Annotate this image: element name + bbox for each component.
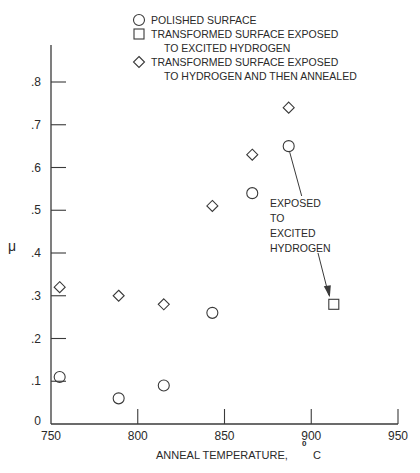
square-marker-icon	[134, 29, 144, 39]
x-tick-label: 850	[214, 429, 234, 443]
axes	[51, 45, 398, 424]
series-diamond	[54, 102, 294, 310]
legend-item-diamond: TRANSFORMED SURFACE EXPOSEDTO HYDROGEN A…	[134, 56, 358, 82]
diamond-point	[283, 102, 294, 113]
annotation-label: EXPOSED	[270, 197, 321, 209]
series-square	[329, 299, 339, 309]
circle-point	[113, 393, 124, 404]
x-tick-label: 800	[128, 429, 148, 443]
legend-label: TRANSFORMED SURFACE EXPOSED	[151, 28, 339, 40]
diamond-point	[247, 149, 258, 160]
legend-label: TRANSFORMED SURFACE EXPOSED	[151, 56, 339, 68]
scatter-chart: 0.1.2.3.4.5.6.7.8 750800850900950 μ ANNE…	[0, 0, 420, 473]
annotation-label: HYDROGEN	[270, 242, 331, 254]
y-tick-label: .3	[31, 289, 41, 303]
annotation-exposed-to-excited-hydrogen: EXPOSEDTOEXCITEDHYDROGEN	[270, 152, 331, 297]
annotation-label: EXCITED	[270, 227, 316, 239]
diamond-point	[113, 290, 124, 301]
y-tick-label: .8	[31, 75, 41, 89]
x-axis-title: ANNEAL TEMPERATURE, 0 C	[156, 439, 321, 461]
square-point	[329, 299, 339, 309]
circle-marker-icon	[134, 15, 145, 26]
x-tick-label: 750	[41, 429, 61, 443]
y-axis-ticks: 0.1.2.3.4.5.6.7.8	[31, 75, 66, 428]
x-axis-title-text: ANNEAL TEMPERATURE,	[156, 449, 288, 461]
diamond-point	[158, 299, 169, 310]
y-tick-label: 0	[34, 414, 41, 428]
diamond-point	[54, 282, 65, 293]
diamond-point	[207, 200, 218, 211]
annotation-label: TO	[270, 212, 284, 224]
x-axis-ticks: 750800850900950	[41, 409, 408, 443]
degree-symbol: 0	[302, 439, 307, 448]
y-tick-label: .1	[31, 374, 41, 388]
legend-label: POLISHED SURFACE	[151, 14, 257, 26]
leader-line	[290, 152, 302, 196]
legend-item-square: TRANSFORMED SURFACE EXPOSEDTO EXCITED HY…	[134, 28, 339, 54]
legend: POLISHED SURFACETRANSFORMED SURFACE EXPO…	[134, 14, 358, 82]
legend-label: TO HYDROGEN AND THEN ANNEALED	[164, 70, 357, 82]
y-axis-title: μ	[8, 238, 16, 254]
y-tick-label: .4	[31, 246, 41, 260]
circle-point	[207, 307, 218, 318]
y-tick-label: .2	[31, 332, 41, 346]
y-tick-label: .7	[31, 118, 41, 132]
y-tick-label: .6	[31, 161, 41, 175]
y-tick-label: .5	[31, 203, 41, 217]
legend-item-circle: POLISHED SURFACE	[134, 14, 257, 26]
arrowhead-icon	[324, 285, 331, 297]
x-tick-label: 950	[388, 429, 408, 443]
x-axis-unit: C	[313, 449, 321, 461]
legend-label: TO EXCITED HYDROGEN	[164, 42, 290, 54]
circle-point	[158, 380, 169, 391]
diamond-marker-icon	[134, 57, 145, 68]
circle-point	[247, 188, 258, 199]
circle-point	[283, 141, 294, 152]
series-circle	[54, 141, 294, 404]
